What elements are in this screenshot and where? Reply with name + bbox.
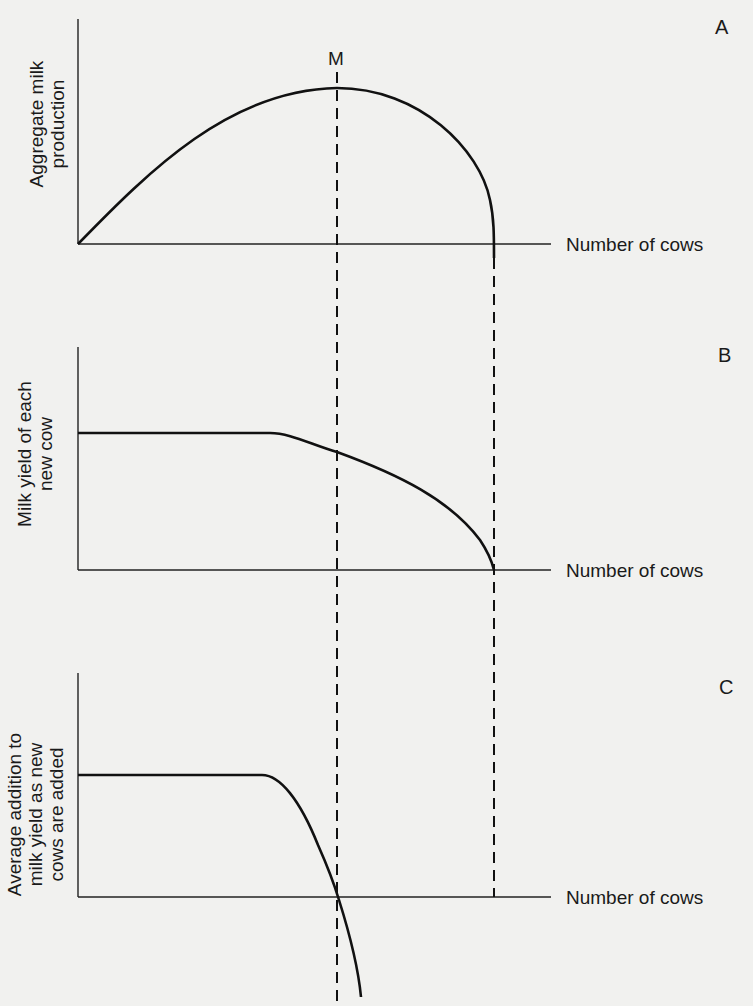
panel-a-axes [78,19,551,244]
panel-a-xlabel: Number of cows [566,234,703,255]
figure-canvas [0,0,753,1006]
marker-m-label: M [328,48,344,69]
panel-a-ylabel-line1: Aggregate milk [26,49,47,199]
panel-c-xlabel: Number of cows [566,887,703,908]
panel-c-ylabel-line1: Average addition to [4,725,25,905]
panel-b-letter: B [718,344,731,367]
panel-b-ylabel-line2: new cow [35,369,56,539]
panel-b-curve [78,433,494,570]
panel-a-letter: A [715,16,728,39]
panel-c-axes [78,673,551,897]
panel-c-ylabel-line2: milk yield as new [25,725,46,905]
panel-b-ylabel: Milk yield of each new cow [14,369,56,539]
panel-c-ylabel-line3: cows are added [46,725,67,905]
panel-a-ylabel-line2: production [47,49,68,199]
panel-c-curve [78,775,361,997]
panel-a-ylabel: Aggregate milk production [26,49,68,199]
panel-b-axes [78,347,551,570]
panel-b-xlabel: Number of cows [566,560,703,581]
panel-c-letter: C [719,676,733,699]
panel-b-ylabel-line1: Milk yield of each [14,369,35,539]
panel-a-curve [78,88,494,258]
panel-c-ylabel: Average addition to milk yield as new co… [4,725,67,905]
